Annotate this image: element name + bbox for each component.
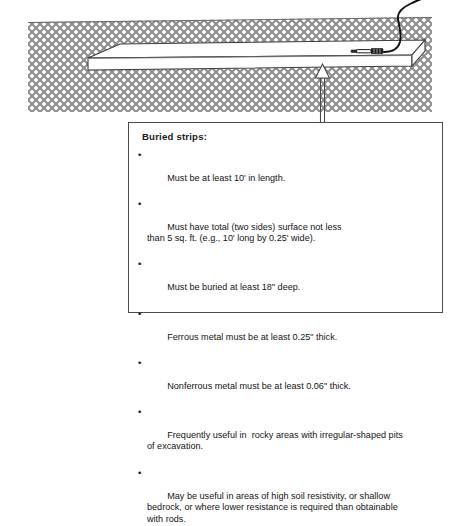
list-item-text: Ferrous metal must be at least 0.25" thi… (167, 332, 337, 342)
callout-text-box: Buried strips: • Must be at least 10' in… (128, 122, 443, 313)
list-item: • Must be buried at least 18" deep. (138, 259, 434, 306)
bullet-glyph: • (138, 198, 141, 210)
bullet-glyph: • (138, 406, 141, 418)
list-item-text: Nonferrous metal must be at least 0.06" … (167, 381, 351, 391)
bullet-glyph: • (138, 467, 141, 479)
list-item: • Nonferrous metal must be at least 0.06… (138, 357, 434, 404)
bullet-glyph: • (138, 357, 141, 369)
list-item-text: Must be at least 10' in length. (167, 173, 285, 183)
list-item: • Must be at least 10' in length. (138, 149, 434, 196)
list-item-text: Must have total (two sides) surface not … (147, 222, 342, 244)
list-item: • Must have total (two sides) surface no… (138, 198, 434, 257)
bullet-glyph: • (138, 149, 141, 161)
callout-bullet-list: • Must be at least 10' in length. • Must… (138, 149, 434, 526)
list-item: • Frequently useful in rocky areas with … (138, 406, 434, 465)
callout-title: Buried strips: (142, 131, 434, 142)
list-item-text: Frequently useful in rocky areas with ir… (147, 430, 403, 452)
buried-metal-strip (88, 40, 425, 70)
bullet-glyph: • (138, 258, 141, 270)
list-item: • May be useful in areas of high soil re… (138, 467, 434, 526)
list-item-text: Must be buried at least 18" deep. (167, 282, 300, 292)
list-item: • Ferrous metal must be at least 0.25" t… (138, 308, 434, 355)
list-item-text: May be useful in areas of high soil resi… (147, 491, 398, 525)
bullet-glyph: • (138, 308, 141, 320)
